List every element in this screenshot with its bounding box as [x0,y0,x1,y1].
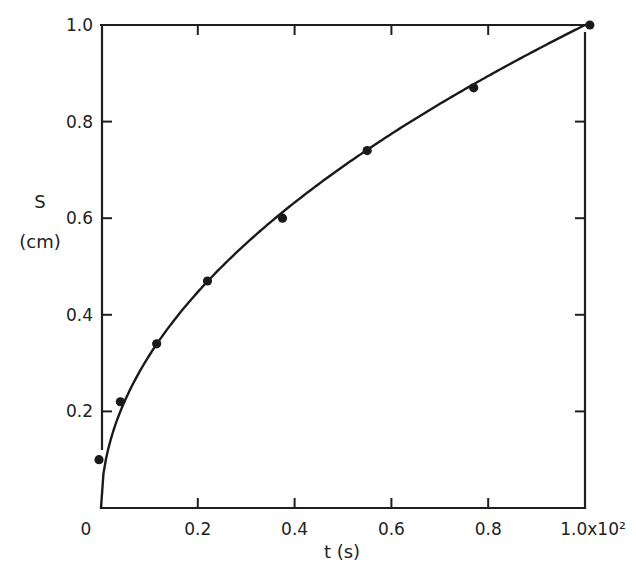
chart: 0.20.40.60.81.0x10²0.20.40.60.81.0 S (cm… [0,0,636,579]
data-point [116,397,125,406]
tick-labels: 0.20.40.60.81.0x10²0.20.40.60.81.0 [66,15,626,539]
y-tick-label: 0.4 [66,305,93,325]
y-axis-label: S [34,191,45,212]
data-point [94,455,103,464]
y-tick-label: 0.2 [66,401,93,421]
x-axis-label: t (s) [324,541,360,562]
y-tick-label: 0.8 [66,112,93,132]
data-point [152,339,161,348]
data-point [585,20,594,29]
x-tick-label: 0.2 [184,519,211,539]
plot-frame [101,25,585,508]
fit-curve [101,25,590,508]
x-tick-label: 0.6 [378,519,405,539]
x-tick-label: 1.0x10² [560,519,626,539]
origin-label: 0 [81,519,92,539]
y-tick-label: 0.6 [66,208,93,228]
data-point [278,214,287,223]
y-tick-label: 1.0 [66,15,93,35]
axis-ticks [102,25,585,508]
x-tick-label: 0.4 [281,519,308,539]
y-axis-unit-label: (cm) [19,231,60,252]
data-point [203,276,212,285]
x-tick-label: 0.8 [475,519,502,539]
data-point [469,83,478,92]
data-points [94,20,594,464]
data-point [363,146,372,155]
